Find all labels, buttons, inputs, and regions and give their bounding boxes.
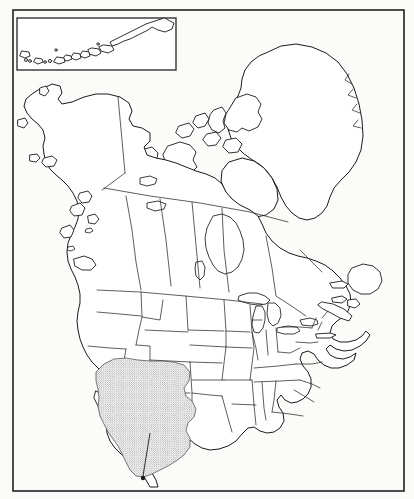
alexander-archipelago-2 bbox=[78, 191, 92, 203]
distribution-map-figure bbox=[0, 0, 414, 499]
aleutian-islet-h bbox=[29, 60, 32, 63]
attu-island bbox=[20, 51, 30, 58]
aleutian-islet-f bbox=[44, 61, 47, 64]
aleutian-islands-inset bbox=[17, 18, 176, 70]
pointer-dot bbox=[141, 476, 145, 480]
aleutian-islet-e bbox=[48, 59, 51, 62]
aleutian-islet-k bbox=[97, 43, 99, 45]
great-bear-lake bbox=[140, 176, 157, 186]
kodiak-island bbox=[42, 156, 57, 167]
map-canvas bbox=[0, 0, 414, 499]
aleutian-islet-i bbox=[25, 59, 28, 62]
great-slave-lake bbox=[147, 201, 166, 211]
aleutian-islet-j bbox=[55, 49, 57, 51]
